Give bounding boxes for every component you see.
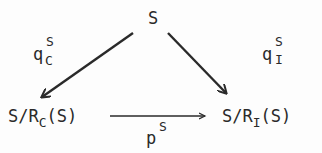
edge-right-base: q [262,44,272,64]
edge-label-left: q S C [33,44,43,64]
node-top-label: S [148,8,158,28]
node-right-tail: (S) [261,106,292,126]
edge-bottom-sup: S [159,119,167,134]
edge-right-sub: I [275,52,283,67]
node-left-base: S/R [8,106,39,126]
edge-left-sup: S [46,34,54,49]
node-right-sub: I [253,115,261,130]
node-right-base: S/R [222,106,253,126]
edge-right-sup: S [275,34,283,49]
arrow-top-to-right [168,33,226,93]
node-left-tail: (S) [47,106,78,126]
edge-label-right: q S I [262,44,272,64]
arrow-top-to-left [42,33,133,97]
edge-bottom-base: p [146,128,156,148]
edge-label-bottom: p S [146,128,156,148]
edge-left-base: q [33,44,43,64]
node-right: S/RI(S) [222,108,291,126]
node-left-sub: C [39,115,47,130]
edge-left-sub: C [45,53,53,68]
node-left: S/RC(S) [8,108,77,126]
node-top: S [148,10,158,27]
